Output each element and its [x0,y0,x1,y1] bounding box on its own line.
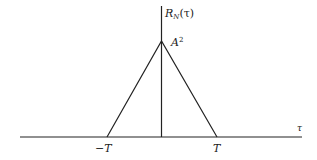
tau-axis-label: τ [297,123,303,133]
y-axis-label: RN(τ) [164,7,194,21]
pos-T-label: T [213,142,222,155]
neg-T-label: −T [95,142,113,155]
autocorrelation-diagram: RN(τ) A2 −T T τ [0,0,317,160]
peak-label: A2 [170,36,183,49]
